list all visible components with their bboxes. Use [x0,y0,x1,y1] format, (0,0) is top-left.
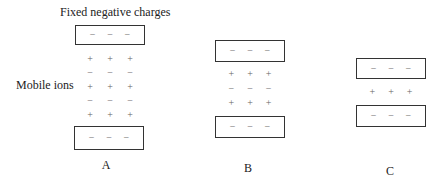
positive-ion: + [365,87,379,97]
negative-ion: − [83,68,97,78]
negative-charge: − [226,46,240,56]
positive-ion: + [403,87,417,97]
fixed-charge-plate-top: − − − [215,40,285,62]
ion-row: − − − [222,84,278,94]
positive-ion: + [224,98,238,108]
ion-row: + + + [363,87,419,97]
positive-ion: + [83,110,97,120]
negative-charge: − [260,46,274,56]
negative-ion: − [103,68,117,78]
positive-ion: + [103,54,117,64]
negative-ion: − [103,96,117,106]
fixed-charge-plate-bottom: − − − [74,126,144,150]
positive-ion: + [103,110,117,120]
negative-charge: − [401,64,415,74]
ion-row: − − − [80,68,140,78]
positive-ion: + [262,98,276,108]
fixed-charge-plate-top: − − − [75,25,145,45]
negative-ion: − [243,84,257,94]
negative-charge: − [102,133,116,143]
negative-charge: − [226,122,240,132]
negative-ion: − [123,96,137,106]
negative-ion: − [224,84,238,94]
ion-row: + + + [80,82,140,92]
fixed-charge-plate-bottom: − − − [356,105,426,127]
panel-label: A [96,158,116,173]
positive-ion: + [384,87,398,97]
negative-ion: − [123,68,137,78]
negative-charge: − [119,133,133,143]
positive-ion: + [123,54,137,64]
ion-row: + + + [80,110,140,120]
fixed-charge-plate-bottom: − − − [215,116,285,138]
negative-charge: − [243,46,257,56]
negative-ion: − [262,84,276,94]
positive-ion: + [243,98,257,108]
negative-charge: − [367,111,381,121]
ion-row: − − − [80,96,140,106]
negative-charge: − [243,122,257,132]
negative-charge: − [401,111,415,121]
positive-ion: + [224,69,238,79]
ion-row: + + + [80,54,140,64]
ion-row: + + + [222,98,278,108]
ion-row: + + + [222,69,278,79]
negative-charge: − [103,30,117,40]
negative-charge: − [85,133,99,143]
positive-ion: + [123,82,137,92]
panel-label: B [238,161,258,176]
positive-ion: + [83,82,97,92]
positive-ion: + [103,82,117,92]
negative-charge: − [120,30,134,40]
positive-ion: + [123,110,137,120]
fixed-negative-charges-label: Fixed negative charges [60,5,170,20]
positive-ion: + [243,69,257,79]
negative-ion: − [83,96,97,106]
panel-label: C [380,164,400,179]
mobile-ions-label: Mobile ions [16,78,74,93]
fixed-charge-plate-top: − − − [356,58,426,79]
positive-ion: + [83,54,97,64]
negative-charge: − [86,30,100,40]
positive-ion: + [262,69,276,79]
negative-charge: − [384,64,398,74]
negative-charge: − [384,111,398,121]
negative-charge: − [367,64,381,74]
negative-charge: − [260,122,274,132]
